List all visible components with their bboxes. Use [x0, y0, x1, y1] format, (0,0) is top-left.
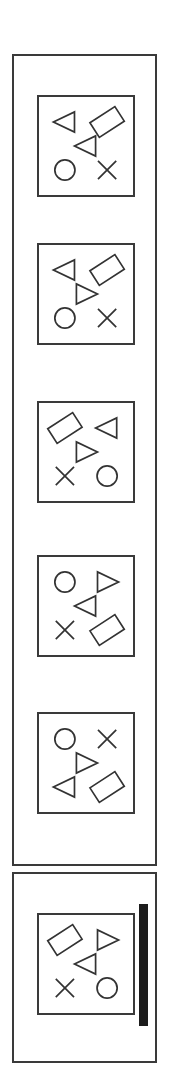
diamond-icon-top-right: [90, 107, 124, 138]
triangle-left-icon-bottom-left: [53, 777, 74, 797]
circle-icon-bottom-right: [97, 978, 117, 998]
panel-scroll-container: [12, 872, 157, 1063]
shape-grid: [39, 557, 133, 655]
triangle-left-icon-center: [74, 954, 95, 974]
triangle-right-icon-center: [76, 442, 97, 462]
vertical-scrollbar-thumb[interactable]: [139, 904, 148, 1026]
shape-card-6[interactable]: [37, 913, 135, 1015]
shape-card-1[interactable]: [37, 95, 135, 197]
triangle-left-icon-top-left: [53, 260, 74, 280]
shape-grid: [39, 245, 133, 343]
circle-icon-bottom-left: [55, 308, 75, 328]
circle-icon-bottom-right: [97, 466, 117, 486]
shape-grid: [39, 915, 133, 1013]
diamond-icon-bottom-right: [90, 772, 124, 803]
shape-grid: [39, 714, 133, 812]
triangle-right-icon-top-right: [98, 572, 119, 592]
cross-icon-bottom-left: [56, 621, 74, 639]
shape-grid: [39, 403, 133, 501]
diamond-icon-top-left: [48, 925, 82, 956]
shape-grid: [39, 97, 133, 195]
triangle-right-icon-center: [76, 753, 97, 773]
shape-card-2[interactable]: [37, 243, 135, 345]
triangle-right-icon-top-right: [98, 930, 119, 950]
app-root: [0, 0, 169, 1081]
shape-card-5[interactable]: [37, 712, 135, 814]
cross-icon-bottom-right: [98, 309, 116, 327]
vertical-scrollbar-track[interactable]: [139, 904, 148, 1026]
cross-icon-bottom-right: [98, 161, 116, 179]
circle-icon-bottom-left: [55, 160, 75, 180]
panel-list-container: [12, 54, 157, 866]
shape-card-4[interactable]: [37, 555, 135, 657]
circle-icon-top-left: [55, 729, 75, 749]
triangle-left-icon-top-right: [96, 418, 117, 438]
diamond-icon-top-right: [90, 255, 124, 286]
diamond-icon-top-left: [48, 413, 82, 444]
cross-icon-bottom-left: [56, 467, 74, 485]
triangle-left-icon-center: [74, 136, 95, 156]
card-list: [14, 56, 155, 864]
shape-card-3[interactable]: [37, 401, 135, 503]
cross-icon-bottom-left: [56, 979, 74, 997]
cross-icon-top-right: [98, 730, 116, 748]
circle-icon-top-left: [55, 572, 75, 592]
card-list-scrollable: [14, 874, 155, 1061]
triangle-left-icon-center: [74, 596, 95, 616]
triangle-left-icon-top-left: [53, 112, 74, 132]
diamond-icon-bottom-right: [90, 615, 124, 646]
triangle-right-icon-center: [76, 284, 97, 304]
